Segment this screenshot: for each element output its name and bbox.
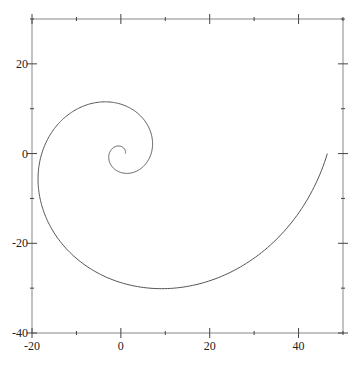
x-tick-labels: -2002040: [24, 339, 305, 353]
x-tick-label: 0: [118, 339, 124, 353]
spiral-chart: -2002040 -40-20020: [0, 0, 361, 366]
x-tick-label: 20: [204, 339, 216, 353]
y-tick-label: -40: [12, 326, 28, 340]
x-tick-label: -20: [24, 339, 40, 353]
axis-ticks: [27, 14, 348, 338]
spiral-curve: [38, 102, 327, 289]
y-tick-labels: -40-20020: [12, 57, 28, 340]
y-tick-label: 0: [22, 147, 28, 161]
y-tick-label: 20: [16, 57, 28, 71]
y-tick-label: -20: [12, 236, 28, 250]
x-tick-label: 40: [293, 339, 305, 353]
